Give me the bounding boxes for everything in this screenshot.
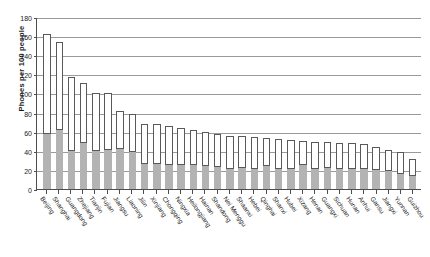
stacked-bar [104,93,112,189]
x-axis-tick [70,190,71,194]
bar-slot [285,18,297,189]
x-axis-tick [192,190,193,194]
bar-slot [260,18,272,189]
x-axis-tick [339,190,340,194]
x-label-slot: Chongqing [162,195,174,255]
x-tick-slot [174,190,186,194]
bar-slot [236,18,248,189]
x-axis-tick [290,190,291,194]
x-label-slot: Shanghai [52,195,64,255]
y-axis-tick-label: 100 [20,91,32,98]
x-axis-tick [119,190,120,194]
bar-group [37,18,421,189]
x-axis-tick [204,190,205,194]
x-label-slot: Guangxi [321,195,333,255]
x-axis-tick [412,190,413,194]
x-axis-tick [46,190,47,194]
bar-lower-segment [275,168,283,189]
stacked-bar [348,143,356,189]
x-tick-slot [370,190,382,194]
y-axis-tick-label: 160 [20,34,32,41]
x-label-slot: Yunnan [394,195,406,255]
bar-lower-segment [311,168,319,189]
stacked-bar [165,126,173,189]
x-axis-tick [217,190,218,194]
stacked-bar [214,134,222,189]
x-axis-tick [253,190,254,194]
bar-slot [199,18,211,189]
bar-slot [78,18,90,189]
x-axis-tick [241,190,242,194]
bar-lower-segment [202,165,210,189]
x-axis-tick [376,190,377,194]
x-axis-tick [143,190,144,194]
x-tick-slot [187,190,199,194]
y-axis-tick-label: 0 [28,187,32,194]
x-label-slot: Qinghai [260,195,272,255]
x-tick-slot [150,190,162,194]
stacked-bar [68,77,76,189]
stacked-bar [275,139,283,189]
x-label-slot: Hunan [345,195,357,255]
bar-slot [297,18,309,189]
x-axis-tick [388,190,389,194]
bar-lower-segment [116,148,124,189]
x-tick-slot [126,190,138,194]
stacked-bar [311,142,319,189]
y-axis-tick-label: 40 [24,148,32,155]
bar-slot [321,18,333,189]
x-axis-tick-label: Guizhou [406,195,426,219]
x-axis-tick [400,190,401,194]
stacked-bar [141,124,149,189]
x-tick-slot [321,190,333,194]
x-axis-ticks [36,190,421,194]
y-axis-tick-label: 140 [20,53,32,60]
bar-lower-segment [214,166,222,189]
stacked-bar [56,42,64,189]
bar-lower-segment [104,149,112,189]
stacked-bar [360,144,368,189]
stacked-bar [372,147,380,189]
bar-lower-segment [190,164,198,189]
x-tick-slot [89,190,101,194]
x-label-slot: Guizhou [407,195,419,255]
x-tick-slot [382,190,394,194]
x-tick-slot [162,190,174,194]
bar-slot [126,18,138,189]
x-axis-tick [82,190,83,194]
bar-slot [382,18,394,189]
x-tick-slot [199,190,211,194]
stacked-bar [92,93,100,189]
bar-lower-segment [238,167,246,189]
stacked-bar [226,136,234,190]
bar-lower-segment [299,164,307,189]
y-axis-tick-label: 180 [20,15,32,22]
bar-lower-segment [385,170,393,189]
bar-slot [90,18,102,189]
y-axis-tick-label: 80 [24,110,32,117]
x-axis-tick [229,190,230,194]
x-label-slot: Sichuan [333,195,345,255]
bar-lower-segment [43,133,51,189]
bar-slot [358,18,370,189]
plot-area: 020406080100120140160180 [36,18,421,190]
x-label-slot: Fujian [101,195,113,255]
x-label-slot: Nei Menggu [223,195,235,255]
x-tick-slot [284,190,296,194]
bar-lower-segment [348,168,356,189]
stacked-bar [43,34,51,189]
x-axis-tick [131,190,132,194]
x-tick-slot [101,190,113,194]
bar-lower-segment [226,168,234,189]
x-tick-slot [138,190,150,194]
stacked-bar [324,142,332,189]
chart-container: Phones per 100 people 020406080100120140… [0,0,430,257]
x-tick-slot [248,190,260,194]
x-tick-slot [223,190,235,194]
bar-lower-segment [251,168,259,189]
x-tick-slot [77,190,89,194]
y-axis-tick-label: 120 [20,72,32,79]
bar-slot [102,18,114,189]
x-label-slot: Liaoning [126,195,138,255]
x-tick-slot [297,190,309,194]
